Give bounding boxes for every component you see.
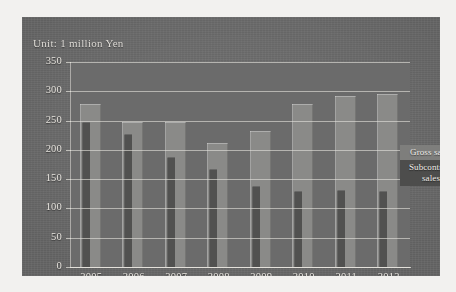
bar-subcontract-sales-2005 — [82, 122, 90, 267]
y-axis-label-200: 200 — [28, 143, 62, 154]
bar-group-2010 — [283, 62, 326, 267]
x-axis-label-2012: 2012 — [369, 271, 409, 276]
bar-subcontract-sales-2012 — [379, 191, 387, 267]
x-axis-label-2007: 2007 — [156, 271, 196, 276]
y-axis-label-250: 250 — [28, 114, 62, 125]
y-axis-tick-150 — [66, 179, 71, 180]
y-axis-label-0: 0 — [28, 260, 62, 271]
gridline-100 — [70, 208, 410, 209]
bar-subcontract-sales-2006 — [124, 134, 132, 267]
y-axis-tick-300 — [66, 91, 71, 92]
bar-group-2011 — [325, 62, 368, 267]
y-axis-tick-250 — [66, 121, 71, 122]
bar-subcontract-sales-2011 — [337, 190, 345, 267]
y-axis-label-50: 50 — [28, 231, 62, 242]
scanned-page: Unit: 1 million Yen Gross sales Subcontr… — [0, 0, 456, 292]
bar-subcontract-sales-2010 — [294, 191, 302, 267]
bar-group-2005 — [70, 62, 113, 267]
x-axis-label-2009: 2009 — [241, 271, 281, 276]
bar-group-2007 — [155, 62, 198, 267]
y-axis-label-150: 150 — [28, 172, 62, 183]
bar-subcontract-sales-2007 — [167, 157, 175, 267]
y-axis-tick-50 — [66, 238, 71, 239]
bar-subcontract-sales-2009 — [252, 186, 260, 267]
y-axis-label-300: 300 — [28, 84, 62, 95]
plot-area — [70, 62, 410, 267]
y-axis-label-100: 100 — [28, 201, 62, 212]
x-axis-label-2005: 2005 — [71, 271, 111, 276]
unit-label: Unit: 1 million Yen — [33, 37, 124, 49]
chart-legend: Gross sales Subcontract sales — [400, 145, 440, 186]
gridline-200 — [70, 150, 410, 151]
x-axis-label-2010: 2010 — [284, 271, 324, 276]
bar-chart-figure: Unit: 1 million Yen Gross sales Subcontr… — [22, 17, 440, 276]
gridline-250 — [70, 121, 410, 122]
y-axis-tick-100 — [66, 208, 71, 209]
bar-group-2006 — [113, 62, 156, 267]
y-axis-tick-350 — [66, 62, 71, 63]
y-axis-label-350: 350 — [28, 55, 62, 66]
y-axis-tick-200 — [66, 150, 71, 151]
bar-subcontract-sales-2008 — [209, 169, 217, 267]
legend-item-subcontract-sales: Subcontract sales — [400, 160, 440, 186]
x-axis-label-2006: 2006 — [114, 271, 154, 276]
gridline-300 — [70, 91, 410, 92]
bar-group-2008 — [198, 62, 241, 267]
x-axis-label-2008: 2008 — [199, 271, 239, 276]
bar-group-2009 — [240, 62, 283, 267]
gridline-50 — [70, 238, 410, 239]
x-axis-line — [70, 267, 411, 268]
gridline-150 — [70, 179, 410, 180]
gridline-350 — [70, 62, 410, 63]
x-axis-label-2011: 2011 — [326, 271, 366, 276]
legend-item-gross-sales: Gross sales — [400, 145, 440, 160]
